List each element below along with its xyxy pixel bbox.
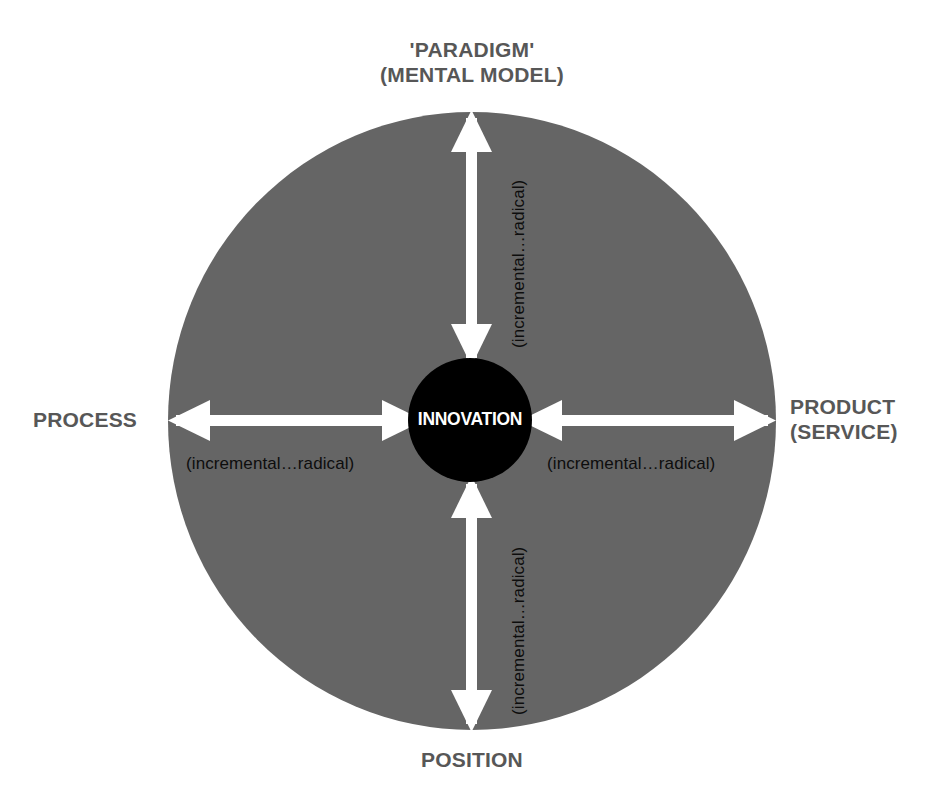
axis-label-product-line2: (SERVICE) bbox=[790, 420, 940, 445]
axis-note-position: (incremental…radical) bbox=[509, 547, 529, 715]
axis-label-position-line1: POSITION bbox=[0, 748, 944, 773]
axis-note-process: (incremental…radical) bbox=[186, 454, 354, 474]
axis-note-product: (incremental…radical) bbox=[547, 454, 715, 474]
axis-label-paradigm-line1: 'PARADIGM' bbox=[0, 38, 944, 63]
axis-note-paradigm: (incremental…radical) bbox=[509, 180, 529, 348]
axis-label-paradigm-line2: (MENTAL MODEL) bbox=[0, 63, 944, 88]
axis-label-position: POSITION bbox=[0, 748, 944, 773]
axis-label-product-line1: PRODUCT bbox=[790, 395, 940, 420]
axis-label-process-line1: PROCESS bbox=[10, 408, 160, 433]
innovation-diagram-canvas: INNOVATION 'PARADIGM' (MENTAL MODEL) PRO… bbox=[0, 0, 944, 795]
axis-label-process: PROCESS bbox=[10, 408, 160, 433]
axis-label-product: PRODUCT (SERVICE) bbox=[790, 395, 940, 445]
innovation-core-label: INNOVATION bbox=[413, 408, 527, 430]
axis-label-paradigm: 'PARADIGM' (MENTAL MODEL) bbox=[0, 38, 944, 88]
